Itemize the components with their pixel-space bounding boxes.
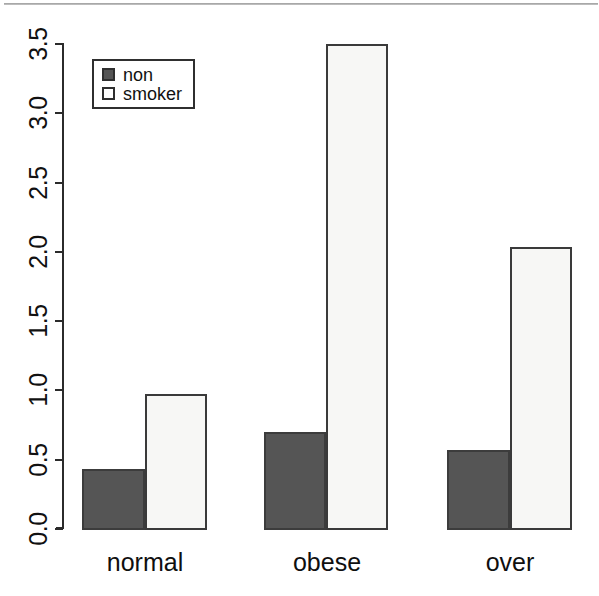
legend-label-non: non <box>123 66 153 84</box>
plot-area: 3.5 3.0 2.5 2.0 1.5 1.0 0.5 0.0 normal o… <box>0 0 599 596</box>
y-tick-label-2_5: 2.5 <box>0 164 54 202</box>
legend-swatch-non-icon <box>102 68 115 81</box>
y-tick-label-1_5: 1.5 <box>0 302 54 340</box>
y-tick-label-text: 3.0 <box>18 96 56 129</box>
bar-normal-non <box>82 469 145 530</box>
y-tick-label-text: 2.5 <box>18 166 56 199</box>
bar-over-non <box>447 450 510 530</box>
y-tick-label-3_5: 3.5 <box>0 25 54 63</box>
legend: non smoker <box>92 59 195 109</box>
y-tick-label-text: 1.5 <box>18 304 56 337</box>
x-label-normal: normal <box>107 548 183 577</box>
legend-swatch-smoker-icon <box>102 87 115 100</box>
y-tick-label-1_0: 1.0 <box>0 371 54 409</box>
y-axis-line <box>62 43 64 529</box>
y-tick-label-text: 0.5 <box>18 443 56 476</box>
bar-normal-smoker <box>145 394 207 530</box>
y-tick-label-0_5: 0.5 <box>0 441 54 479</box>
x-label-obese: obese <box>293 548 361 577</box>
y-tick-label-text: 0.0 <box>18 512 56 545</box>
legend-entry-smoker: smoker <box>102 84 182 103</box>
y-tick-label-text: 3.5 <box>18 27 56 60</box>
legend-entry-non: non <box>102 65 153 84</box>
y-tick-label-text: 1.0 <box>18 373 56 406</box>
bar-obese-non <box>264 432 326 530</box>
x-label-over: over <box>486 548 535 577</box>
legend-label-smoker: smoker <box>123 85 182 103</box>
y-tick-label-text: 2.0 <box>18 235 56 268</box>
bar-chart: 3.5 3.0 2.5 2.0 1.5 1.0 0.5 0.0 normal o… <box>0 0 599 596</box>
y-tick-label-0_0: 0.0 <box>0 510 54 548</box>
y-tick-label-2_0: 2.0 <box>0 233 54 271</box>
y-tick-label-3_0: 3.0 <box>0 94 54 132</box>
bar-over-smoker <box>510 247 572 530</box>
bar-obese-smoker <box>326 44 388 530</box>
